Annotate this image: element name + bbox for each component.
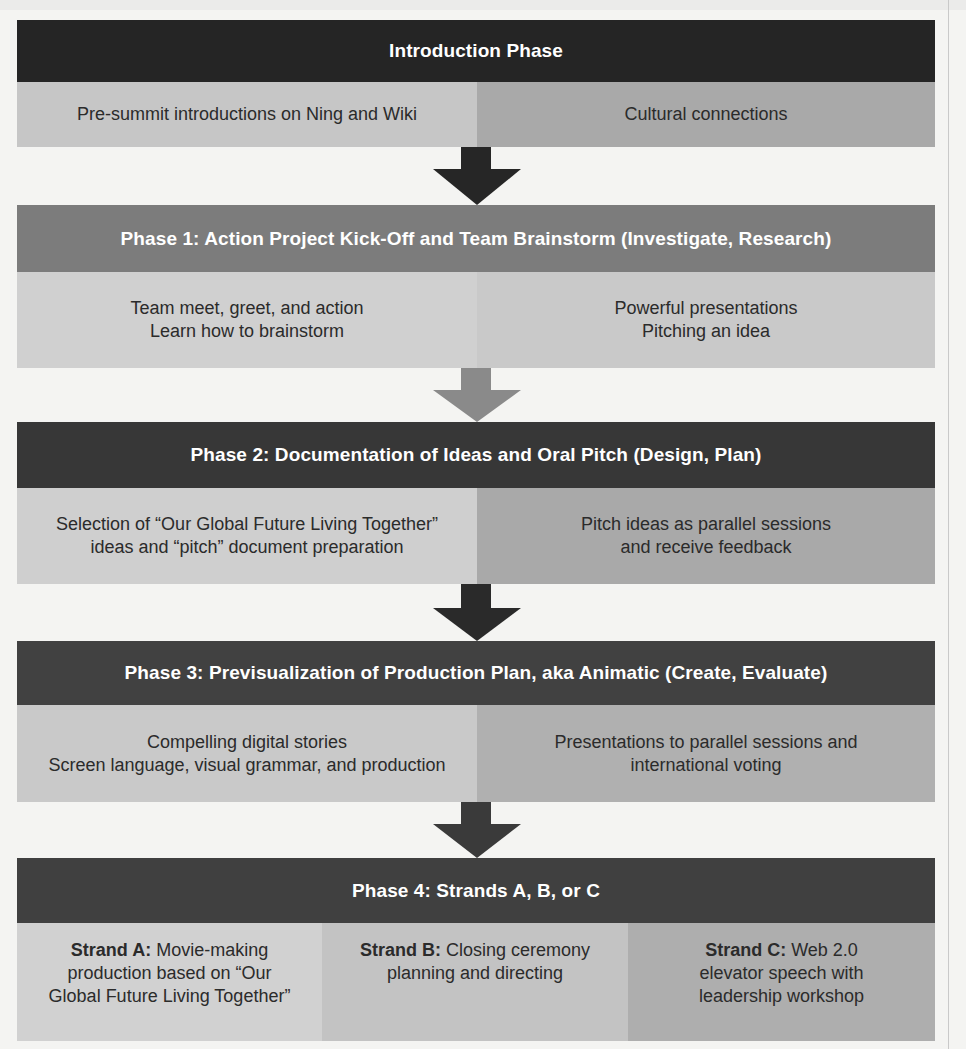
phase1-block: Phase 1: Action Project Kick-Off and Tea…: [17, 205, 935, 368]
strand-a-label: Strand A:: [71, 940, 151, 960]
strand-b-label: Strand B:: [360, 940, 441, 960]
phase3-cell-right: Presentations to parallel sessions and i…: [477, 705, 935, 802]
down-arrow-icon: [433, 584, 521, 641]
phase3-block: Phase 3: Previsualization of Production …: [17, 641, 935, 802]
phase4-title: Phase 4: Strands A, B, or C: [352, 880, 600, 902]
arrow-head: [433, 608, 521, 641]
arrow-head: [433, 824, 521, 858]
down-arrow-icon: [433, 802, 521, 858]
strand-c-line: Web 2.0: [791, 940, 858, 960]
intro-cell-right-text: Cultural connections: [624, 103, 787, 126]
arrow-shaft: [461, 584, 491, 610]
phase3-cell-right-line: Presentations to parallel sessions and: [554, 731, 857, 754]
phase1-cell-right-line: Powerful presentations: [614, 297, 797, 320]
arrow-shaft: [461, 147, 491, 171]
down-arrow-icon: [433, 147, 521, 205]
phase3-cell-right-line: international voting: [554, 754, 857, 777]
phase3-cell-left-line: Screen language, visual grammar, and pro…: [48, 754, 445, 777]
phase2-block: Phase 2: Documentation of Ideas and Oral…: [17, 422, 935, 584]
phase3-cell-left: Compelling digital stories Screen langua…: [17, 705, 477, 802]
phase4-block: Phase 4: Strands A, B, or C Strand A: Mo…: [17, 858, 935, 1041]
page-margin-rule: [948, 0, 949, 1049]
intro-phase-header: Introduction Phase: [17, 20, 935, 82]
strand-c-line: elevator speech with: [699, 962, 864, 985]
phase1-cell-left: Team meet, greet, and action Learn how t…: [17, 272, 477, 368]
phase2-cell-left-line: Selection of “Our Global Future Living T…: [56, 513, 438, 536]
strand-b-line: Closing ceremony: [446, 940, 590, 960]
phase3-body: Compelling digital stories Screen langua…: [17, 705, 935, 802]
strand-c-cell: Strand C: Web 2.0 elevator speech with l…: [628, 923, 935, 1041]
phase3-title: Phase 3: Previsualization of Production …: [125, 662, 828, 684]
strand-a-line: production based on “Our: [49, 962, 291, 985]
arrow-head: [433, 169, 521, 205]
phase3-header: Phase 3: Previsualization of Production …: [17, 641, 935, 705]
phase4-body: Strand A: Movie-making production based …: [17, 923, 935, 1041]
page-top-strip: [0, 0, 966, 10]
arrow-shaft: [461, 802, 491, 826]
phase1-cell-right-line: Pitching an idea: [614, 320, 797, 343]
phase2-title: Phase 2: Documentation of Ideas and Oral…: [191, 444, 762, 466]
strand-b-line: planning and directing: [360, 962, 590, 985]
intro-phase-block: Introduction Phase Pre-summit introducti…: [17, 20, 935, 147]
phase3-cell-left-line: Compelling digital stories: [48, 731, 445, 754]
down-arrow-icon: [433, 368, 521, 422]
phase2-cell-left-line: ideas and “pitch” document preparation: [56, 536, 438, 559]
phase4-header: Phase 4: Strands A, B, or C: [17, 858, 935, 923]
intro-cell-left-text: Pre-summit introductions on Ning and Wik…: [77, 103, 417, 126]
arrow-head: [433, 390, 521, 422]
intro-phase-body: Pre-summit introductions on Ning and Wik…: [17, 82, 935, 147]
phase2-cell-right-line: and receive feedback: [581, 536, 831, 559]
arrow-shaft: [461, 368, 491, 392]
phase1-title: Phase 1: Action Project Kick-Off and Tea…: [121, 228, 832, 250]
strand-a-line: Movie-making: [156, 940, 268, 960]
intro-phase-title: Introduction Phase: [389, 40, 563, 62]
intro-cell-right: Cultural connections: [477, 82, 935, 147]
strand-c-label: Strand C:: [705, 940, 786, 960]
phase1-cell-right: Powerful presentations Pitching an idea: [477, 272, 935, 368]
strand-c-line: leadership workshop: [699, 985, 864, 1008]
phase2-body: Selection of “Our Global Future Living T…: [17, 488, 935, 584]
strand-a-cell: Strand A: Movie-making production based …: [17, 923, 322, 1041]
strand-b-cell: Strand B: Closing ceremony planning and …: [322, 923, 628, 1041]
phase2-cell-left: Selection of “Our Global Future Living T…: [17, 488, 477, 584]
phase2-cell-right-line: Pitch ideas as parallel sessions: [581, 513, 831, 536]
intro-cell-left: Pre-summit introductions on Ning and Wik…: [17, 82, 477, 147]
phase1-cell-left-line: Team meet, greet, and action: [130, 297, 363, 320]
phase1-body: Team meet, greet, and action Learn how t…: [17, 272, 935, 368]
phase1-header: Phase 1: Action Project Kick-Off and Tea…: [17, 205, 935, 272]
phase2-cell-right: Pitch ideas as parallel sessions and rec…: [477, 488, 935, 584]
phase1-cell-left-line: Learn how to brainstorm: [130, 320, 363, 343]
strand-a-line: Global Future Living Together”: [49, 985, 291, 1008]
phase2-header: Phase 2: Documentation of Ideas and Oral…: [17, 422, 935, 488]
